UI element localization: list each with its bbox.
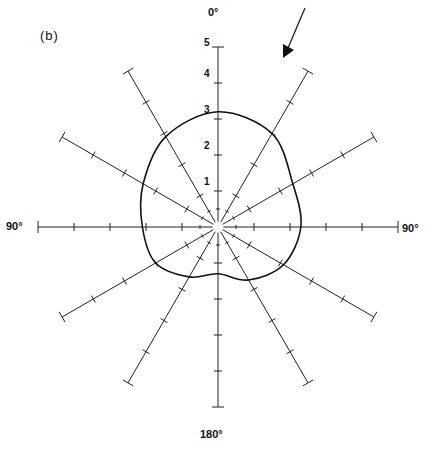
spoke-tick [310, 170, 314, 177]
spoke-tick [185, 206, 189, 213]
polar-figure: (b) 0° 90° 90° 180° 1 2 3 4 5 [0, 0, 440, 450]
spoke-tick [143, 100, 150, 104]
spoke-tick [247, 242, 251, 249]
radial-tick-4: 4 [204, 68, 210, 79]
spoke-tick [371, 312, 377, 322]
spoke-tick [143, 350, 150, 354]
spoke-line [223, 230, 374, 317]
spoke-tick [122, 170, 126, 177]
spoke-tick [341, 296, 345, 303]
spoke-tick [59, 132, 65, 142]
spoke-tick [154, 188, 158, 195]
spoke-tick [122, 278, 126, 285]
spoke-line [223, 137, 374, 224]
spoke-line [221, 232, 308, 383]
radial-tick-5: 5 [204, 37, 210, 48]
spoke-tick [197, 194, 204, 198]
spoke-line [62, 137, 213, 224]
radial-tick-1: 1 [204, 176, 210, 187]
spoke-tick [251, 163, 258, 167]
spoke-tick [278, 188, 282, 195]
spoke-tick [161, 319, 168, 323]
spoke-tick [247, 206, 251, 213]
spoke-tick [251, 287, 258, 291]
spoke-tick [303, 68, 313, 74]
spoke-tick [197, 256, 204, 260]
label-0-deg: 0° [208, 6, 219, 18]
spoke-tick [91, 152, 95, 159]
spoke-tick [303, 380, 313, 386]
spoke-line [221, 71, 308, 222]
spoke-tick [371, 132, 377, 142]
spoke-tick [233, 256, 240, 260]
spoke-tick [269, 319, 276, 323]
spoke-tick [123, 68, 133, 74]
label-90-deg-left: 90° [6, 220, 23, 232]
spoke-tick [179, 287, 186, 291]
polar-plot [0, 0, 440, 450]
label-180-deg: 180° [200, 428, 223, 440]
spoke-tick [179, 163, 186, 167]
spoke-tick [161, 131, 168, 135]
spoke-tick [185, 242, 189, 249]
spoke-tick [123, 380, 133, 386]
spoke-tick [310, 278, 314, 285]
spoke-line [62, 230, 213, 317]
spoke-tick [287, 100, 294, 104]
radial-tick-3: 3 [204, 104, 210, 115]
spoke-tick [341, 152, 345, 159]
radial-tick-2: 2 [204, 140, 210, 151]
spoke-tick [59, 312, 65, 322]
direction-arrow-shaft [288, 8, 305, 48]
label-90-deg-right: 90° [402, 222, 419, 234]
spoke-tick [91, 296, 95, 303]
spoke-line [128, 232, 215, 383]
spoke-tick [233, 194, 240, 198]
spoke-tick [287, 350, 294, 354]
